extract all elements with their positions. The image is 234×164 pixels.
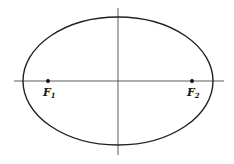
focus-label-f1: F1 (42, 86, 56, 100)
focus-label-f2: F2 (186, 86, 200, 100)
focus-point-f2 (190, 79, 194, 83)
focus-point-f1 (46, 79, 50, 83)
ellipse-diagram: F1 F2 (0, 0, 234, 164)
